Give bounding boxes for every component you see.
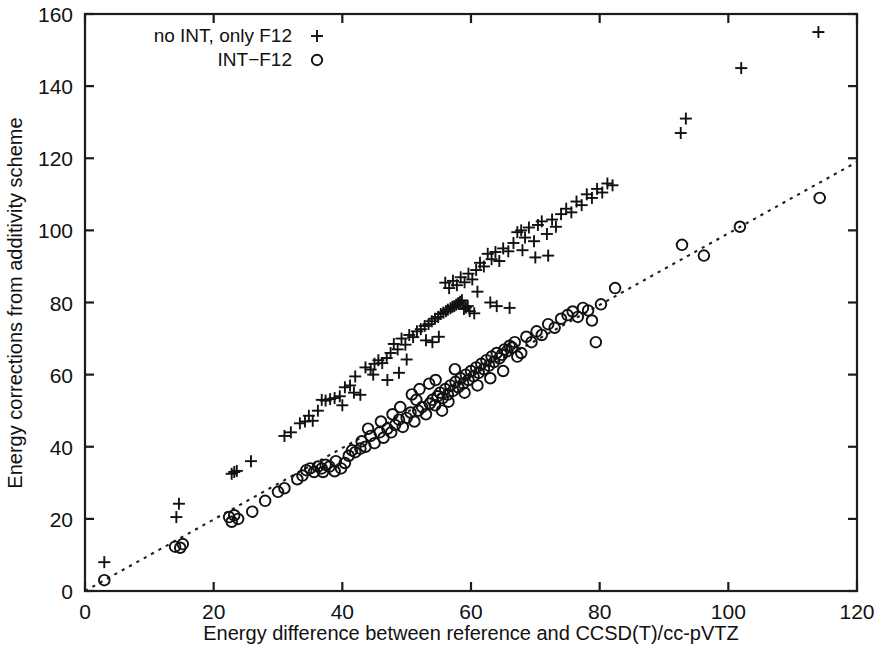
circle-marker — [363, 423, 374, 434]
legend-entry-label-no-int-only-f12: no INT, only F12 — [154, 25, 292, 46]
circle-marker — [376, 416, 387, 427]
y-tick-label: 100 — [38, 219, 73, 242]
x-tick-label: 80 — [588, 600, 611, 623]
x-axis-ticks — [85, 14, 857, 591]
circle-marker — [260, 496, 271, 507]
circle-marker — [591, 337, 602, 348]
series-int-f12 — [99, 193, 825, 586]
x-tick-label: 0 — [79, 600, 91, 623]
x-tick-label: 120 — [839, 600, 874, 623]
legend: no INT, only F12 INT−F12 — [154, 25, 323, 70]
legend-marker-circle-icon — [312, 55, 322, 65]
y-axis-title: Energy corrections from additivity schem… — [4, 117, 26, 488]
y-tick-label: 140 — [38, 75, 73, 98]
x-tick-label: 20 — [202, 600, 225, 623]
scatter-plot-svg: 020406080100120 020406080100120140160 En… — [0, 0, 875, 648]
circle-marker — [699, 250, 710, 261]
y-axis-ticks — [85, 14, 857, 591]
y-tick-label: 40 — [50, 436, 73, 459]
circle-marker — [247, 506, 258, 517]
y-tick-label: 160 — [38, 3, 73, 26]
y-axis-tick-labels: 020406080100120140160 — [38, 3, 73, 603]
axes-rectangle — [85, 14, 857, 591]
circle-marker — [472, 380, 483, 391]
chart-figure: 020406080100120 020406080100120140160 En… — [0, 0, 875, 648]
x-tick-label: 40 — [331, 600, 354, 623]
circle-marker — [587, 315, 598, 326]
y-tick-label: 120 — [38, 147, 73, 170]
circle-marker — [498, 366, 509, 377]
circle-marker — [677, 240, 688, 251]
plot-frame — [85, 14, 857, 591]
y-tick-label: 60 — [50, 364, 73, 387]
x-axis-title: Energy difference between reference and … — [203, 622, 738, 644]
x-tick-label: 60 — [459, 600, 482, 623]
circle-marker — [450, 364, 461, 375]
x-axis-tick-labels: 020406080100120 — [79, 600, 874, 623]
circle-marker — [610, 283, 621, 294]
circle-marker — [99, 575, 110, 586]
y-tick-label: 80 — [50, 292, 73, 315]
circle-marker — [814, 193, 825, 204]
y-tick-label: 20 — [50, 508, 73, 531]
y-tick-label: 0 — [61, 580, 73, 603]
legend-entry-label-int-f12: INT−F12 — [218, 49, 292, 70]
circle-marker — [485, 373, 496, 384]
x-tick-label: 100 — [711, 600, 746, 623]
series-no-int-only-f12 — [98, 26, 824, 568]
legend-marker-plus-icon — [311, 30, 323, 42]
circle-marker — [414, 384, 425, 395]
